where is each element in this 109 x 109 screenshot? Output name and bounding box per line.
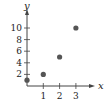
y-axis-label: y [23, 0, 30, 11]
data-point [41, 72, 46, 77]
y-tick-label: 10 [11, 23, 23, 33]
y-tick-label: 4 [16, 58, 22, 68]
x-tick-label: 1 [40, 91, 46, 101]
data-point [24, 78, 29, 83]
y-tick-label: 2 [16, 69, 22, 79]
y-tick-label: 6 [16, 46, 22, 56]
data-point [73, 25, 78, 30]
data-points [24, 25, 78, 82]
data-point [57, 54, 62, 59]
x-tick-label: 3 [73, 91, 79, 101]
x-axis-arrow-icon [89, 84, 95, 88]
x-axis-label: x [98, 80, 104, 91]
scatter-chart: y x 246810 123 [0, 0, 109, 109]
y-tick-label: 8 [16, 35, 22, 45]
x-tick-label: 2 [57, 91, 63, 101]
